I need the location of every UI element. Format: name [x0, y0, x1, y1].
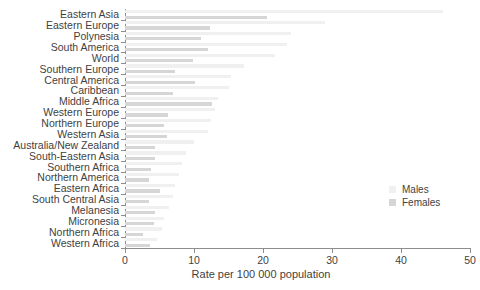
bar-males	[125, 54, 275, 57]
bar-group	[125, 74, 470, 85]
bar-group	[125, 150, 470, 161]
bar-females	[125, 211, 155, 214]
bar-males	[125, 217, 164, 220]
bar-females	[125, 37, 201, 40]
bar-group	[125, 9, 470, 20]
bar-females	[125, 168, 151, 171]
category-label: Western Africa	[51, 237, 119, 248]
x-axis-tick-label: 30	[326, 254, 338, 266]
bar-group	[125, 31, 470, 42]
bar-females	[125, 26, 210, 29]
bar-group	[125, 20, 470, 31]
bar-males	[125, 43, 287, 46]
x-axis-tick-label: 40	[395, 254, 407, 266]
x-axis-tick	[125, 248, 126, 253]
legend-label: Males	[402, 184, 429, 195]
bar-group	[125, 226, 470, 237]
bar-females	[125, 48, 208, 51]
plot-area	[125, 9, 470, 248]
bar-females	[125, 70, 175, 73]
x-axis-ticks: 01020304050	[125, 248, 470, 268]
bar-males	[125, 227, 162, 230]
bar-males	[125, 108, 215, 111]
bar-females	[125, 102, 212, 105]
bar-group	[125, 172, 470, 183]
bar-females	[125, 16, 267, 19]
bar-males	[125, 195, 173, 198]
x-axis-tick	[194, 248, 195, 253]
bar-males	[125, 238, 157, 241]
bar-males	[125, 162, 182, 165]
x-axis-tick	[332, 248, 333, 253]
bar-females	[125, 135, 167, 138]
x-axis-tick	[263, 248, 264, 253]
x-axis-title: Rate per 100 000 population	[0, 268, 480, 280]
bar-females	[125, 178, 149, 181]
bar-females	[125, 124, 164, 127]
x-axis-tick	[401, 248, 402, 253]
bar-group	[125, 63, 470, 74]
x-axis-title-text: Rate per 100 000 population	[150, 268, 331, 280]
legend-item[interactable]: Males	[389, 183, 440, 196]
bar-group	[125, 42, 470, 53]
x-axis-tick-label: 0	[122, 254, 128, 266]
bar-group	[125, 129, 470, 140]
bar-females	[125, 157, 155, 160]
bar-males	[125, 184, 175, 187]
bar-males	[125, 75, 231, 78]
legend-swatch-icon	[389, 199, 396, 206]
bar-females	[125, 200, 149, 203]
bar-group	[125, 161, 470, 172]
bar-group	[125, 237, 470, 248]
bar-males	[125, 140, 194, 143]
bar-females	[125, 92, 173, 95]
bar-females	[125, 81, 195, 84]
x-axis-tick-label: 10	[188, 254, 200, 266]
bar-group	[125, 96, 470, 107]
chart-legend: MalesFemales	[389, 183, 440, 209]
bar-females	[125, 222, 154, 225]
bar-males	[125, 32, 291, 35]
bar-males	[125, 21, 325, 24]
bar-males	[125, 151, 186, 154]
bar-males	[125, 97, 218, 100]
legend-label: Females	[402, 197, 440, 208]
bar-males	[125, 206, 169, 209]
bar-group	[125, 107, 470, 118]
bar-females	[125, 113, 168, 116]
bar-females	[125, 59, 193, 62]
bar-group	[125, 85, 470, 96]
bar-females	[125, 146, 155, 149]
bar-males	[125, 119, 211, 122]
x-axis-tick	[470, 248, 471, 253]
bar-chart: Eastern AsiaEastern EuropePolynesiaSouth…	[0, 0, 480, 290]
bar-group	[125, 139, 470, 150]
category-axis-labels: Eastern AsiaEastern EuropePolynesiaSouth…	[0, 9, 119, 248]
bar-group	[125, 52, 470, 63]
bar-males	[125, 64, 244, 67]
bar-females	[125, 244, 150, 247]
bar-males	[125, 173, 179, 176]
bar-males	[125, 130, 208, 133]
legend-swatch-icon	[389, 186, 396, 193]
x-axis-tick-label: 50	[464, 254, 476, 266]
bar-group	[125, 215, 470, 226]
bar-group	[125, 118, 470, 129]
bar-males	[125, 10, 443, 13]
bar-females	[125, 189, 160, 192]
bar-males	[125, 86, 229, 89]
legend-item[interactable]: Females	[389, 196, 440, 209]
x-axis-tick-label: 20	[257, 254, 269, 266]
bar-females	[125, 233, 143, 236]
